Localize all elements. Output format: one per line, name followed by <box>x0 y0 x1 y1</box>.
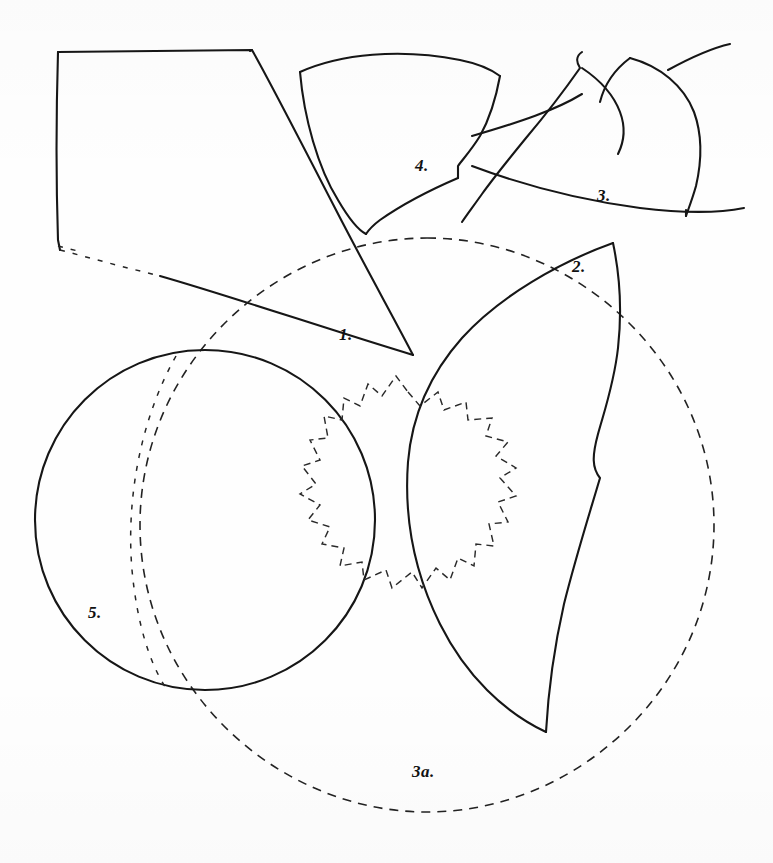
fan-wedge-plate <box>300 54 500 234</box>
figure-label-4: 4. <box>415 156 429 176</box>
quadrilateral-plate <box>57 50 414 355</box>
solid-circle <box>35 350 375 690</box>
figure-label-3: 3. <box>597 186 611 206</box>
drawing-sheet: 1. 2. 3. 4. 5. 3a. <box>0 0 773 863</box>
figure-label-3a: 3a. <box>412 762 435 782</box>
figure-label-5: 5. <box>88 603 102 623</box>
figure-label-1: 1. <box>339 325 353 345</box>
leaf-lens-profile <box>407 243 620 732</box>
large-dashed-circle <box>140 238 714 812</box>
figure-label-2: 2. <box>572 257 586 277</box>
faint-dashed-chord <box>131 356 176 688</box>
line-drawing-canvas <box>0 0 773 863</box>
